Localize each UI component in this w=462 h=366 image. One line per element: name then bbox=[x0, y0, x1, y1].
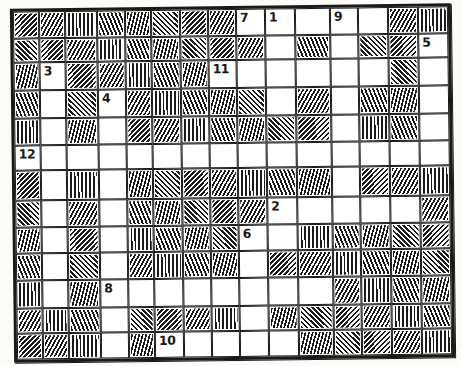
blocked-cell bbox=[298, 305, 333, 330]
crossword-cell[interactable] bbox=[154, 279, 183, 307]
crossword-cell[interactable] bbox=[267, 142, 297, 167]
blocked-cell bbox=[333, 276, 361, 304]
blocked-cell bbox=[388, 34, 418, 58]
crossword-cell[interactable] bbox=[210, 143, 238, 168]
crossword-cell[interactable] bbox=[100, 252, 128, 279]
crossword-cell[interactable] bbox=[266, 87, 296, 115]
crossword-cell[interactable] bbox=[297, 142, 332, 167]
crossword-cell[interactable] bbox=[332, 141, 360, 166]
crossword-cell[interactable] bbox=[99, 199, 127, 226]
crossword-cell[interactable] bbox=[360, 141, 390, 166]
crossword-cell[interactable] bbox=[419, 85, 449, 113]
crossword-cell[interactable] bbox=[240, 306, 269, 331]
crossword-cell[interactable] bbox=[153, 144, 182, 169]
crossword-cell[interactable] bbox=[127, 144, 153, 169]
crossword-cell[interactable] bbox=[332, 196, 360, 223]
crossword-cell[interactable] bbox=[238, 143, 267, 168]
crossword-cell[interactable] bbox=[42, 280, 68, 308]
blocked-cell bbox=[184, 306, 212, 331]
crossword-cell[interactable] bbox=[212, 331, 240, 357]
crossword-cell[interactable] bbox=[42, 253, 68, 280]
crossword-cell[interactable]: 3 bbox=[40, 62, 66, 90]
crossword-cell[interactable] bbox=[268, 224, 298, 250]
blocked-cell bbox=[208, 36, 236, 60]
blocked-cell bbox=[388, 58, 418, 86]
crossword-cell[interactable] bbox=[295, 8, 330, 35]
blocked-cell bbox=[97, 10, 125, 37]
crossword-cell[interactable] bbox=[42, 227, 68, 253]
crossword-cell[interactable] bbox=[331, 114, 359, 141]
cell-number: 10 bbox=[159, 333, 176, 348]
crossword-cell[interactable]: 5 bbox=[418, 33, 448, 57]
crossword-cell[interactable]: 6 bbox=[239, 225, 268, 251]
crossword-cell[interactable] bbox=[101, 307, 129, 332]
crossword-cell[interactable]: 2 bbox=[267, 197, 297, 224]
crossword-cell[interactable]: 1 bbox=[265, 8, 295, 35]
blocked-cell bbox=[67, 170, 99, 200]
crossword-cell[interactable] bbox=[182, 143, 210, 168]
blocked-cell bbox=[152, 117, 181, 144]
crossword-cell[interactable] bbox=[240, 331, 269, 357]
crossword-cell[interactable] bbox=[390, 196, 420, 223]
crossword-cell[interactable] bbox=[41, 170, 67, 200]
blocked-cell bbox=[127, 169, 153, 199]
crossword-cell[interactable] bbox=[128, 279, 154, 307]
crossword-cell[interactable] bbox=[98, 117, 126, 144]
blocked-cell bbox=[420, 195, 450, 222]
crossword-cell[interactable] bbox=[358, 58, 388, 86]
blocked-cell bbox=[334, 329, 362, 355]
crossword-cell[interactable] bbox=[99, 144, 127, 169]
crossword-cell[interactable]: 9 bbox=[330, 7, 358, 34]
blocked-cell bbox=[181, 116, 209, 143]
crossword-cell[interactable]: 4 bbox=[98, 89, 126, 117]
crossword-cell[interactable] bbox=[330, 58, 358, 86]
crossword-cell[interactable] bbox=[265, 35, 295, 59]
crossword-cell[interactable] bbox=[419, 113, 449, 140]
blocked-cell bbox=[180, 36, 208, 60]
crossword-cell[interactable] bbox=[239, 278, 268, 306]
crossword-cell[interactable] bbox=[330, 34, 358, 58]
crossword-cell[interactable] bbox=[265, 59, 295, 87]
crossword-cell[interactable]: 8 bbox=[100, 279, 128, 307]
crossword-cell[interactable]: 11 bbox=[208, 60, 236, 88]
crossword-cell[interactable] bbox=[360, 196, 390, 223]
crossword-cell[interactable] bbox=[211, 278, 239, 306]
crossword-grid: 719531141226810 bbox=[10, 3, 455, 362]
blocked-cell bbox=[129, 307, 155, 332]
blocked-cell bbox=[210, 168, 238, 198]
crossword-cell[interactable]: 10 bbox=[155, 332, 184, 358]
crossword-cell[interactable] bbox=[332, 166, 360, 196]
crossword-cell[interactable] bbox=[268, 277, 298, 305]
blocked-cell bbox=[181, 88, 209, 116]
crossword-cell[interactable] bbox=[41, 145, 67, 170]
crossword-cell[interactable] bbox=[101, 332, 129, 358]
crossword-cell[interactable] bbox=[100, 226, 128, 252]
crossword-cell[interactable] bbox=[358, 7, 388, 34]
crossword-cell[interactable] bbox=[389, 141, 419, 166]
crossword-cell[interactable] bbox=[41, 200, 67, 227]
crossword-cell[interactable] bbox=[298, 277, 333, 305]
crossword-cell[interactable] bbox=[184, 331, 212, 357]
crossword-cell[interactable]: 12 bbox=[15, 145, 41, 170]
blocked-cell bbox=[333, 249, 361, 276]
blocked-cell bbox=[421, 303, 451, 328]
blocked-cell bbox=[418, 6, 448, 33]
blocked-cell bbox=[269, 305, 299, 330]
crossword-cell[interactable] bbox=[183, 278, 211, 306]
crossword-cell[interactable] bbox=[419, 140, 449, 165]
cell-number: 3 bbox=[44, 63, 52, 78]
crossword-cell[interactable] bbox=[297, 197, 332, 224]
crossword-cell[interactable] bbox=[269, 330, 299, 356]
crossword-cell[interactable] bbox=[239, 251, 268, 278]
crossword-cell[interactable] bbox=[331, 86, 359, 114]
crossword-cell[interactable] bbox=[99, 169, 127, 199]
crossword-cell[interactable] bbox=[418, 57, 448, 85]
crossword-cell[interactable] bbox=[236, 60, 265, 88]
cell-number: 5 bbox=[422, 35, 430, 50]
blocked-cell bbox=[420, 165, 450, 195]
crossword-cell[interactable] bbox=[40, 90, 66, 118]
crossword-cell[interactable] bbox=[40, 118, 66, 145]
crossword-cell[interactable]: 7 bbox=[236, 9, 265, 36]
crossword-cell[interactable] bbox=[67, 145, 99, 170]
crossword-cell[interactable] bbox=[295, 59, 330, 87]
